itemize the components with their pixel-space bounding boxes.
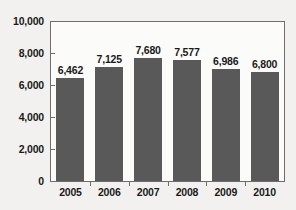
y-axis-tick-label: 10,000 [13, 15, 44, 27]
y-axis: 02,0004,0006,0008,00010,000 [0, 21, 44, 182]
y-axis-tick-label: 0 [38, 175, 44, 187]
bar [212, 69, 240, 181]
bar-value-label: 6,986 [213, 55, 238, 67]
bar-value-label: 7,680 [135, 44, 160, 56]
bar-value-label: 6,462 [58, 64, 83, 76]
bar-value-label: 6,800 [252, 58, 277, 70]
x-axis-tick-label: 2008 [167, 186, 207, 198]
y-axis-tick-label: 6,000 [19, 79, 44, 91]
bar-chart-figure: 02,0004,0006,0008,00010,000 6,4627,1257,… [0, 0, 296, 210]
x-axis-tick-label: 2005 [50, 186, 90, 198]
bar [56, 78, 84, 181]
bar-value-label: 7,577 [174, 46, 199, 58]
x-axis-tick-label: 2006 [89, 186, 129, 198]
bar-group: 7,125 [95, 21, 123, 181]
y-axis-tick-label: 8,000 [19, 47, 44, 59]
bar-group: 6,800 [251, 21, 279, 181]
bar [134, 58, 162, 181]
bar-group: 6,462 [56, 21, 84, 181]
bar-group: 6,986 [212, 21, 240, 181]
bars-container: 6,4627,1257,6807,5776,9866,800 [51, 21, 284, 181]
bar [173, 60, 201, 181]
bar [251, 72, 279, 181]
y-axis-tick-label: 2,000 [19, 143, 44, 155]
x-axis-tick-label: 2010 [245, 186, 285, 198]
bar-value-label: 7,125 [97, 53, 122, 65]
y-axis-tick-label: 4,000 [19, 111, 44, 123]
bar-group: 7,680 [134, 21, 162, 181]
x-axis: 200520062007200820092010 [51, 186, 284, 206]
x-axis-tick-label: 2009 [206, 186, 246, 198]
bar-group: 7,577 [173, 21, 201, 181]
bar [95, 67, 123, 181]
x-axis-tick-label: 2007 [128, 186, 168, 198]
